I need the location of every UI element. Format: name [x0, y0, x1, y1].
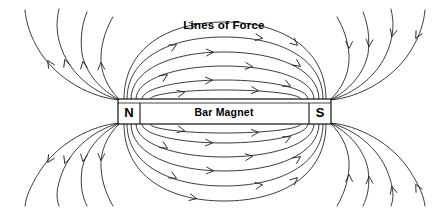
- field-open-left-top-1: [25, 10, 120, 100]
- field-open-right-top-4: [330, 17, 349, 100]
- bar-magnet-field-diagram: Lines of Force Bar Magnet N S: [0, 0, 434, 208]
- field-loop-sixth-bottom-arrowhead-1: [177, 126, 185, 134]
- lines-of-force-label: Lines of Force: [183, 19, 264, 31]
- south-pole-label: S: [316, 105, 325, 120]
- field-loop-sixth-bottom: [150, 124, 301, 133]
- north-pole-label: N: [124, 105, 133, 120]
- field-open-left-top-2-arrowhead-1: [62, 58, 71, 67]
- bar-magnet-label: Bar Magnet: [194, 106, 253, 118]
- field-open-right-top-4-arrowhead-1: [346, 41, 353, 48]
- field-open-left-bottom-1: [25, 123, 120, 206]
- field-loop-fifth-top: [142, 80, 308, 99]
- field-open-left-bottom-2-arrowhead-1: [62, 156, 71, 165]
- field-loop-third-top: [131, 52, 319, 99]
- open-field-lines-right-top-group: [330, 9, 425, 100]
- field-open-right-bottom-3-arrowhead-1: [366, 176, 373, 184]
- field-open-left-top-3-arrowhead-1: [80, 61, 88, 69]
- field-loop-outer-bottom: [124, 124, 326, 201]
- field-loop-third-bottom: [131, 124, 319, 171]
- field-open-right-top-3-arrowhead-1: [366, 39, 373, 47]
- field-open-right-bottom-4: [330, 123, 349, 206]
- field-loop-fifth-top-arrowhead-2: [283, 80, 292, 89]
- field-lines-canvas: Lines of Force Bar Magnet N S: [0, 0, 434, 208]
- field-open-right-bottom-2: [330, 123, 393, 206]
- field-open-left-top-4: [101, 17, 120, 100]
- field-open-left-bottom-3-arrowhead-1: [80, 154, 88, 162]
- field-open-left-top-2: [57, 9, 120, 100]
- field-open-right-bottom-1: [330, 123, 425, 206]
- field-loop-sixth-top: [150, 90, 301, 99]
- field-open-right-top-2: [330, 9, 393, 100]
- field-loop-fourth-bottom-arrowhead-2: [245, 153, 253, 161]
- open-field-lines-left-top-group: [25, 9, 120, 100]
- open-field-lines-left-bottom-group: [25, 123, 120, 206]
- field-loop-fifth-bottom-arrowhead-2: [283, 134, 292, 143]
- field-open-right-top-1: [330, 10, 425, 100]
- field-open-right-bottom-4-arrowhead-1: [346, 174, 353, 181]
- field-open-left-bottom-2: [57, 123, 120, 206]
- field-open-left-bottom-4: [101, 123, 120, 206]
- field-loop-sixth-top-arrowhead-1: [177, 89, 185, 97]
- open-field-lines-right-bottom-group: [330, 123, 425, 206]
- field-loop-outer-top: [124, 22, 326, 99]
- field-loop-fifth-bottom: [142, 124, 308, 143]
- field-loop-fourth-top-arrowhead-2: [245, 63, 253, 71]
- field-loop-outer-bottom-arrowhead-2: [290, 175, 300, 185]
